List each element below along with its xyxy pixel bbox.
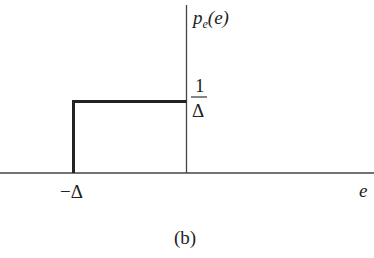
height-numerator: 1 — [195, 76, 205, 95]
y-axis-label: pe(e) — [193, 8, 229, 27]
x-tick-neg-delta: −Δ — [60, 182, 83, 201]
x-axis-label: e — [359, 181, 367, 200]
y-label-base: p — [193, 7, 203, 28]
pdf-plot — [0, 0, 374, 258]
caption: (b) — [174, 228, 196, 247]
pdf-curve — [74, 102, 187, 174]
y-label-arg: (e) — [208, 7, 229, 28]
y-label-subscript: e — [203, 17, 208, 31]
height-denominator: Δ — [192, 101, 204, 120]
